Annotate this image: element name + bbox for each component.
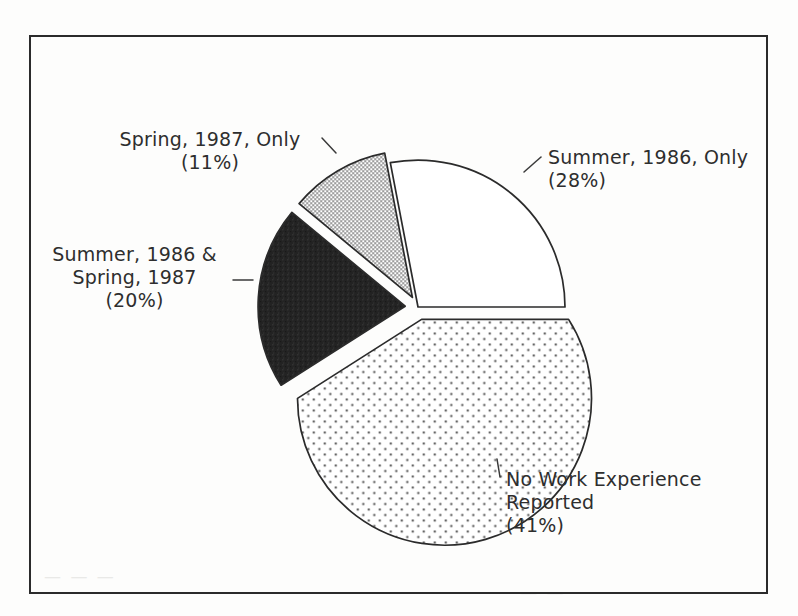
figure-canvas: — — — — —: [0, 0, 798, 616]
pie-label-summer-and-spring: Summer, 1986 & Spring, 1987 (20%): [22, 243, 247, 312]
pie-label-spring-only: Spring, 1987, Only (11%): [100, 128, 320, 174]
pie-label-no-work-experience: No Work Experience Reported (41%): [506, 468, 756, 537]
pie-label-summer-only: Summer, 1986, Only (28%): [548, 146, 788, 192]
leader-line-summer-only: [524, 157, 541, 172]
leader-line-spring-only: [322, 138, 336, 153]
pie-slice-summer-only: [390, 160, 565, 307]
